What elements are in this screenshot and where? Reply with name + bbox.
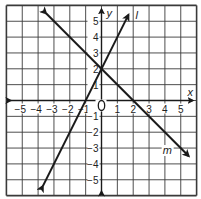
x-tick-label: −4: [30, 104, 42, 115]
y-axis-label: y: [106, 7, 114, 19]
x-tick-label: 4: [162, 104, 168, 115]
y-tick-label: 3: [93, 48, 99, 59]
y-tick-label: 5: [93, 16, 99, 27]
y-tick-label: −3: [87, 143, 99, 154]
x-tick-label: −3: [46, 104, 58, 115]
y-tick-label: −1: [87, 111, 99, 122]
series-lines: lm: [43, 9, 189, 186]
coordinate-plane: −5−4−3−2−112345−5−4−3−2−112345 lm x y: [0, 0, 201, 199]
x-tick-label: 2: [130, 104, 136, 115]
x-tick-label: 3: [146, 104, 152, 115]
x-axis-label: x: [187, 86, 194, 98]
series-label-m: m: [163, 144, 172, 156]
x-tick-label: 1: [115, 104, 121, 115]
y-tick-label: −2: [87, 127, 99, 138]
x-tick-label: −5: [15, 104, 27, 115]
y-tick-label: −4: [87, 159, 99, 170]
series-label-l: l: [135, 9, 138, 21]
x-tick-label: −2: [62, 104, 74, 115]
y-tick-label: −5: [87, 175, 99, 186]
x-tick-label: 5: [178, 104, 184, 115]
y-tick-label: 4: [93, 32, 99, 43]
